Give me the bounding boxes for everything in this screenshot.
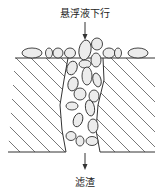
arrow-down-icon: [83, 153, 88, 170]
arrow-down-icon: [83, 22, 88, 40]
filtration-diagram: 悬浮液下行: [0, 0, 160, 196]
filter-residue-label: 滤渣: [75, 176, 95, 188]
suspension-inflow-label: 悬浮液下行: [60, 7, 110, 19]
